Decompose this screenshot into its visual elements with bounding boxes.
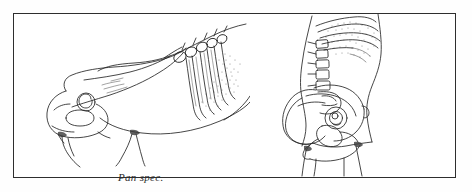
- pan-ilium-hatching: [102, 78, 127, 93]
- homo-sacrum-inner-line-2: [322, 104, 337, 106]
- pan-pubic-symphysis-edge: [98, 132, 110, 138]
- pan-ilium-lower-edge: [72, 53, 183, 107]
- figure-root: Pan spec.: [0, 0, 472, 192]
- homo-costal-cartilage: [350, 48, 370, 62]
- figure-frame: Pan spec.: [13, 13, 456, 178]
- pan-femur-right-inner: [136, 134, 145, 166]
- pan-ilium-outline: [64, 48, 186, 91]
- homo-sapiens-drawing: [250, 14, 472, 179]
- homo-groin-contour: [313, 142, 372, 147]
- homo-thigh-left-inner: [314, 159, 316, 176]
- panel-pan-spec: Pan spec.: [14, 14, 250, 177]
- pan-hip-knot-right: [130, 130, 140, 136]
- pan-femur-left-inner: [68, 138, 74, 156]
- homo-back-contour: [301, 16, 313, 146]
- homo-sacrum-inner-line: [322, 96, 336, 101]
- pan-innominate-inner-2: [52, 126, 74, 132]
- homo-sacrum: [318, 92, 341, 114]
- pan-obturator-foramen: [66, 110, 94, 126]
- pan-stipple-shading: [202, 54, 241, 115]
- homo-vertebral-column: [308, 40, 330, 90]
- homo-thigh-right-outer: [356, 146, 362, 176]
- pan-innominate-inner-1: [54, 104, 70, 110]
- homo-ribs: [316, 17, 380, 50]
- pan-ribs: [186, 42, 235, 120]
- pan-femur-left: [62, 136, 80, 167]
- homo-trochanter-right: [354, 142, 363, 148]
- homo-femoral-head: [332, 113, 338, 119]
- homo-asis-notch: [362, 106, 369, 118]
- pan-spec-drawing: [14, 14, 250, 179]
- pan-rump-curve: [224, 96, 250, 120]
- homo-ilium-inner-fossa-2: [298, 102, 325, 106]
- homo-trochanter-left: [304, 146, 312, 152]
- pan-femur-right: [116, 134, 132, 166]
- caption-pan-spec: Pan spec.: [118, 171, 163, 183]
- panel-homo-sapiens: Homo sapiens: [250, 14, 472, 177]
